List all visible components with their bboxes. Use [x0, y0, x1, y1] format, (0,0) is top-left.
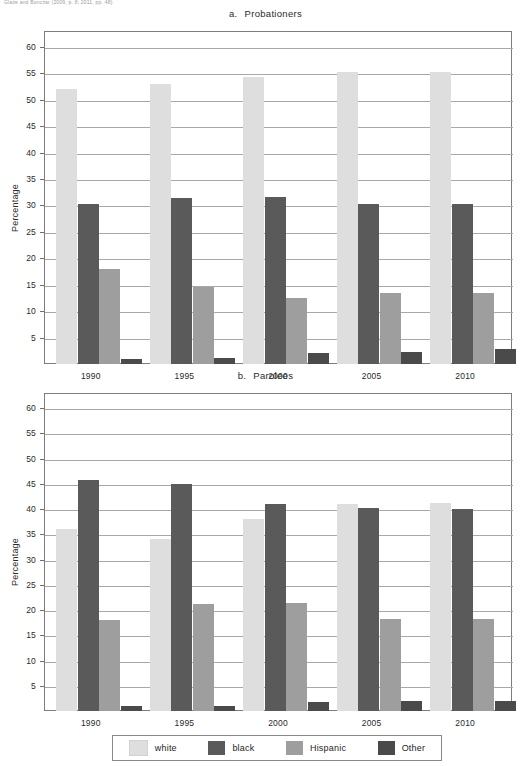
y-axis-tick-mark [40, 205, 44, 206]
x-axis-tick-label: 2010 [418, 718, 512, 728]
y-axis-tick-label: 40 [10, 148, 36, 158]
bar-hispanic-2000 [286, 603, 307, 711]
bar-black-2000 [265, 504, 286, 711]
gridline [45, 460, 513, 461]
y-axis-tick-label: 25 [10, 580, 36, 590]
legend-swatch-black [208, 741, 225, 755]
bar-other-1995 [214, 706, 235, 711]
panel-a-title: a.Probationers [0, 8, 531, 19]
y-axis-tick-label: 60 [10, 403, 36, 413]
y-axis-tick-label: 45 [10, 121, 36, 131]
panel-a-letter: a. [229, 8, 238, 19]
bar-hispanic-1990 [99, 269, 120, 364]
y-axis-tick-label: 50 [10, 454, 36, 464]
panel-b-letter: b. [238, 370, 247, 381]
bar-white-2005 [337, 504, 358, 711]
legend-item-black[interactable]: black [208, 741, 254, 755]
legend-swatch-white [129, 740, 148, 756]
y-axis-tick-label: 35 [10, 529, 36, 539]
y-axis-tick-mark [40, 459, 44, 460]
y-axis-tick-mark [40, 338, 44, 339]
legend-item-other[interactable]: Other [378, 741, 426, 755]
bar-white-2000 [243, 519, 264, 711]
y-axis-tick-label: 5 [10, 333, 36, 343]
bar-white-2010 [430, 72, 451, 364]
x-axis-tick-label: 2005 [325, 718, 419, 728]
bar-white-1995 [150, 539, 171, 711]
x-axis-tick-label: 1995 [138, 718, 232, 728]
x-axis-tick-label: 2000 [231, 718, 325, 728]
bar-hispanic-2005 [380, 619, 401, 711]
bar-black-2000 [265, 197, 286, 364]
y-axis-tick-label: 45 [10, 479, 36, 489]
bar-hispanic-2010 [473, 293, 494, 364]
y-axis-tick-label: 15 [10, 280, 36, 290]
bar-other-2005 [401, 701, 422, 711]
gridline [45, 409, 513, 410]
y-axis-tick-label: 5 [10, 681, 36, 691]
bar-white-2005 [337, 72, 358, 364]
y-axis-tick-label: 15 [10, 630, 36, 640]
bar-hispanic-1995 [193, 287, 214, 364]
y-axis-tick-mark [40, 661, 44, 662]
panel-b-title: b.Parolees [0, 370, 531, 381]
y-axis-tick-mark [40, 126, 44, 127]
gridline [45, 434, 513, 435]
bar-white-1990 [56, 89, 77, 364]
bar-black-1995 [171, 198, 192, 365]
y-axis-tick-mark [40, 153, 44, 154]
y-axis-tick-label: 10 [10, 656, 36, 666]
top-citation-text: Glaze and Bonczar (2009, p. 8; 2011, pp.… [4, 0, 113, 5]
y-axis-tick-mark [40, 534, 44, 535]
y-axis-tick-mark [40, 73, 44, 74]
legend-label: Hispanic [310, 743, 346, 753]
y-axis-tick-label: 60 [10, 42, 36, 52]
panel-b-title-text: Parolees [253, 370, 293, 381]
bar-other-2005 [401, 352, 422, 364]
bar-hispanic-1990 [99, 620, 120, 711]
y-axis-tick-label: 55 [10, 428, 36, 438]
y-axis-tick-label: 20 [10, 253, 36, 263]
x-axis-tick-label: 1990 [44, 718, 138, 728]
legend-label: black [232, 743, 254, 753]
legend-item-hispanic[interactable]: Hispanic [286, 741, 346, 755]
y-axis-tick-label: 30 [10, 555, 36, 565]
bar-black-1990 [78, 480, 99, 711]
y-axis-tick-mark [40, 509, 44, 510]
y-axis-tick-mark [40, 100, 44, 101]
bar-black-1995 [171, 484, 192, 711]
chart-panel-parolees: b.Parolees Percentage5101520253035404550… [0, 370, 531, 718]
bar-other-2000 [308, 702, 329, 711]
bar-hispanic-2010 [473, 619, 494, 711]
y-axis-tick-mark [40, 311, 44, 312]
chart-panel-probationers: a.Probationers Percentage510152025303540… [0, 8, 531, 370]
bar-white-1995 [150, 84, 171, 364]
chart-legend: whiteblackHispanicOther [112, 735, 442, 761]
legend-item-white[interactable]: white [129, 740, 177, 756]
bar-black-2005 [358, 508, 379, 711]
y-axis-tick-label: 30 [10, 200, 36, 210]
bar-hispanic-1995 [193, 604, 214, 711]
bar-white-1990 [56, 529, 77, 711]
bar-other-1995 [214, 358, 235, 364]
legend-swatch-hispanic [286, 741, 303, 755]
panel-a-title-text: Probationers [245, 8, 302, 19]
bar-other-1990 [121, 706, 142, 711]
y-axis-tick-mark [40, 686, 44, 687]
y-axis-tick-mark [40, 560, 44, 561]
gridline [45, 48, 513, 49]
y-axis-tick-mark [40, 484, 44, 485]
bar-other-2010 [495, 701, 516, 711]
y-axis-tick-label: 35 [10, 174, 36, 184]
y-axis-tick-label: 50 [10, 95, 36, 105]
y-axis-tick-mark [40, 433, 44, 434]
y-axis-tick-mark [40, 232, 44, 233]
y-axis-tick-mark [40, 610, 44, 611]
y-axis-tick-label: 25 [10, 227, 36, 237]
y-axis-tick-label: 10 [10, 306, 36, 316]
bar-white-2010 [430, 503, 451, 711]
y-axis-tick-label: 20 [10, 605, 36, 615]
bar-black-1990 [78, 204, 99, 364]
gridline [45, 485, 513, 486]
y-axis-tick-mark [40, 47, 44, 48]
